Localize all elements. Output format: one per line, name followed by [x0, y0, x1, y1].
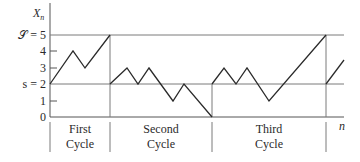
- cycle-2-label-line2: Cycle: [147, 137, 175, 151]
- y-axis-title: Xn: [32, 6, 44, 22]
- tick-label-0: 0: [40, 110, 46, 124]
- cycle-1-label-line2: Cycle: [66, 137, 94, 151]
- tick-label-S: 𝒮 = 5: [18, 28, 46, 42]
- inventory-cycle-chart: Xn 𝒮 = 5 4 3 s = 2 1 0 n First Cycle Sec…: [0, 0, 360, 162]
- cycle-2-label-line1: Second: [143, 122, 178, 136]
- cycle-3-label-line2: Cycle: [255, 137, 283, 151]
- cycle-3-label-line1: Third: [256, 122, 283, 136]
- cycle-1-path: [50, 35, 110, 84]
- cycle-4-path: [326, 60, 344, 84]
- cycle-2-path: [110, 68, 212, 117]
- tick-label-1: 1: [40, 94, 46, 108]
- x-axis-title: n: [339, 119, 345, 133]
- tick-label-s: s = 2: [23, 77, 46, 91]
- tick-label-3: 3: [40, 61, 46, 75]
- cycle-3-path: [212, 35, 326, 101]
- tick-label-4: 4: [40, 44, 46, 58]
- cycle-1-label-line1: First: [69, 122, 92, 136]
